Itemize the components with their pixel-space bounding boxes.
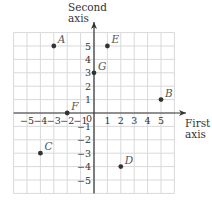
x-axis-title-line2: axis: [185, 129, 210, 140]
x-tick-label: −2: [60, 115, 74, 126]
point-a: [51, 44, 56, 49]
y-tick-label: −4: [77, 161, 91, 172]
y-tick-label: 4: [85, 54, 91, 65]
point-label-c: C: [44, 140, 52, 152]
data-points: ABCDEFG: [38, 33, 173, 169]
point-f: [65, 111, 70, 116]
y-axis-title-line2: axis: [68, 13, 107, 24]
x-axis-title: First axis: [185, 118, 210, 140]
point-e: [105, 44, 110, 49]
y-tick-label: 2: [85, 81, 91, 92]
point-g: [92, 70, 97, 75]
point-label-e: E: [110, 33, 119, 45]
y-axis-title: Second axis: [68, 2, 107, 24]
y-tick-label: −5: [77, 175, 91, 186]
y-tick-label: 3: [85, 67, 91, 78]
axes: [14, 22, 186, 193]
coordinate-plane: −5−4−3−2−112345−5−4−3−2−1123450 ABCDEFG: [0, 0, 212, 202]
point-d: [118, 164, 123, 169]
point-label-b: B: [164, 87, 173, 99]
x-tick-label: 3: [131, 115, 137, 126]
y-tick-label: 5: [85, 41, 91, 52]
point-b: [159, 97, 164, 102]
x-tick-label: −4: [33, 115, 47, 126]
point-label-d: D: [124, 154, 134, 166]
x-tick-label: 4: [145, 115, 151, 126]
y-tick-label: −2: [77, 134, 91, 145]
point-label-a: A: [57, 33, 66, 45]
y-tick-label: −3: [77, 148, 91, 159]
point-c: [38, 151, 43, 156]
x-tick-label: 2: [118, 115, 124, 126]
x-tick-label: −5: [20, 115, 34, 126]
y-tick-label: 1: [85, 94, 91, 105]
x-tick-label: 5: [158, 115, 164, 126]
x-tick-label: −3: [47, 115, 61, 126]
x-tick-label: 1: [104, 115, 110, 126]
origin-label: 0: [86, 113, 92, 124]
point-label-g: G: [98, 60, 106, 72]
point-label-f: F: [70, 100, 79, 112]
